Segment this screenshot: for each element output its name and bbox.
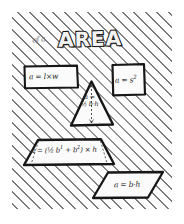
trapezoid-figure: a = (½ b1 + b2) × h: [21, 137, 117, 167]
title-block: of a AREA: [30, 27, 155, 52]
parallelogram-formula: a = b·h: [114, 181, 140, 189]
square-formula: a = s2: [115, 75, 137, 85]
parallelogram-figure: a = b·h: [90, 170, 166, 200]
square-formula-base: a = s: [115, 75, 134, 84]
title-annotation: of a: [31, 34, 45, 45]
rectangle-formula: a = l×w: [29, 73, 58, 81]
trapezoid-formula-mid: + b: [63, 146, 77, 154]
triangle-formula: a = ½ b·h: [81, 94, 98, 108]
area-formulas-sketch: of a AREA a = l×w a = s2 a = ½ b·h: [0, 0, 184, 224]
page-title: AREA: [58, 26, 123, 52]
triangle-figure: a = ½ b·h: [68, 79, 116, 128]
trapezoid-formula-base: a = (½ b: [31, 146, 60, 155]
square-formula-exponent: 2: [133, 74, 136, 80]
triangle-formula-line2: ½ b·h: [81, 100, 98, 107]
trapezoid-formula-tail: ) × h: [80, 146, 97, 154]
trapezoid-formula: a = (½ b1 + b2) × h: [31, 144, 97, 155]
